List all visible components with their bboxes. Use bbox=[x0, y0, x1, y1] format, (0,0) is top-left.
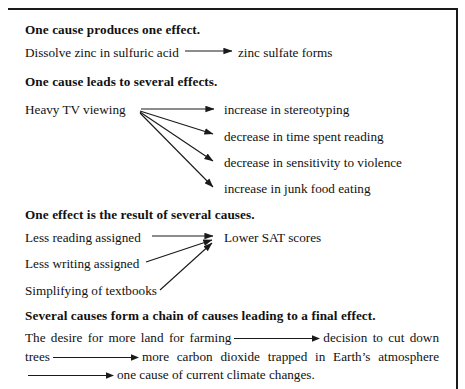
cause-less-writing-assigned: Less writing assigned bbox=[25, 256, 139, 272]
chain-arrow-3-icon bbox=[28, 371, 114, 380]
chain-arrow-2-icon bbox=[53, 353, 139, 362]
chain-arrow-1-icon bbox=[234, 334, 320, 343]
effect-increase-junk-food: increase in junk food eating bbox=[224, 181, 370, 197]
arrow-writing-to-sat-icon bbox=[146, 240, 212, 262]
effect-decrease-reading-time: decrease in time spent reading bbox=[224, 129, 384, 145]
heading-one-effect-several-causes: One effect is the result of several caus… bbox=[25, 207, 255, 223]
heading-one-cause-several-effects: One cause leads to several effects. bbox=[25, 74, 217, 90]
chain-link-3: more carbon dioxide trapped in Earth’s a… bbox=[142, 349, 439, 364]
chain-link-1: The desire for more land for farming bbox=[25, 330, 231, 345]
top-rule bbox=[8, 8, 458, 10]
cause-heavy-tv-viewing: Heavy TV viewing bbox=[25, 102, 126, 118]
effect-decrease-sensitivity-violence: decrease in sensitivity to violence bbox=[224, 155, 402, 171]
cause-simplifying-textbooks: Simplifying of textbooks bbox=[25, 283, 157, 299]
cause-dissolve-zinc: Dissolve zinc in sulfuric acid bbox=[25, 45, 179, 61]
arrow-textbooks-to-sat-icon bbox=[160, 243, 212, 290]
effect-increase-stereotyping: increase in stereotyping bbox=[224, 102, 349, 118]
heading-chain-of-causes: Several causes form a chain of causes le… bbox=[25, 308, 376, 324]
effect-lower-sat-scores: Lower SAT scores bbox=[224, 230, 321, 246]
right-rule bbox=[456, 8, 458, 389]
chain-link-4: one cause of current climate changes. bbox=[117, 367, 315, 382]
cause-effect-diagram-page: One cause produces one effect. Dissolve … bbox=[0, 0, 465, 389]
arrow-tv-to-reading-icon bbox=[140, 111, 213, 134]
chain-paragraph: The desire for more land for farming dec… bbox=[25, 329, 439, 385]
effect-zinc-sulfate: zinc sulfate forms bbox=[238, 45, 332, 61]
heading-one-cause-one-effect: One cause produces one effect. bbox=[25, 22, 200, 38]
cause-less-reading-assigned: Less reading assigned bbox=[25, 230, 141, 246]
arrow-tv-to-junkfood-icon bbox=[140, 113, 213, 187]
arrow-tv-to-violence-icon bbox=[140, 112, 213, 161]
